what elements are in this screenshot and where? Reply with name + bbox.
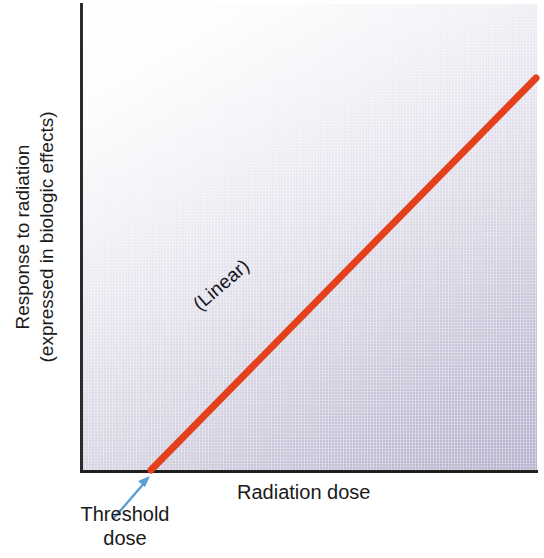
plot-area [82, 4, 537, 470]
threshold-dose-annotation: Threshold dose [56, 503, 194, 550]
y-axis-line [80, 3, 83, 473]
panel-texture [82, 4, 537, 470]
y-axis-title-line-2: (expressed in biologic effects) [36, 112, 58, 363]
threshold-dose-line-2: dose [56, 527, 194, 551]
y-axis-title: Response to radiation (expressed in biol… [4, 4, 66, 470]
x-axis-line [80, 470, 538, 473]
threshold-dose-line-1: Threshold [56, 503, 194, 527]
dose-response-figure: (Linear) Response to radiation (expresse… [0, 0, 544, 558]
x-axis-title: Radiation dose [237, 481, 370, 504]
y-axis-title-line-1: Response to radiation [12, 145, 34, 330]
